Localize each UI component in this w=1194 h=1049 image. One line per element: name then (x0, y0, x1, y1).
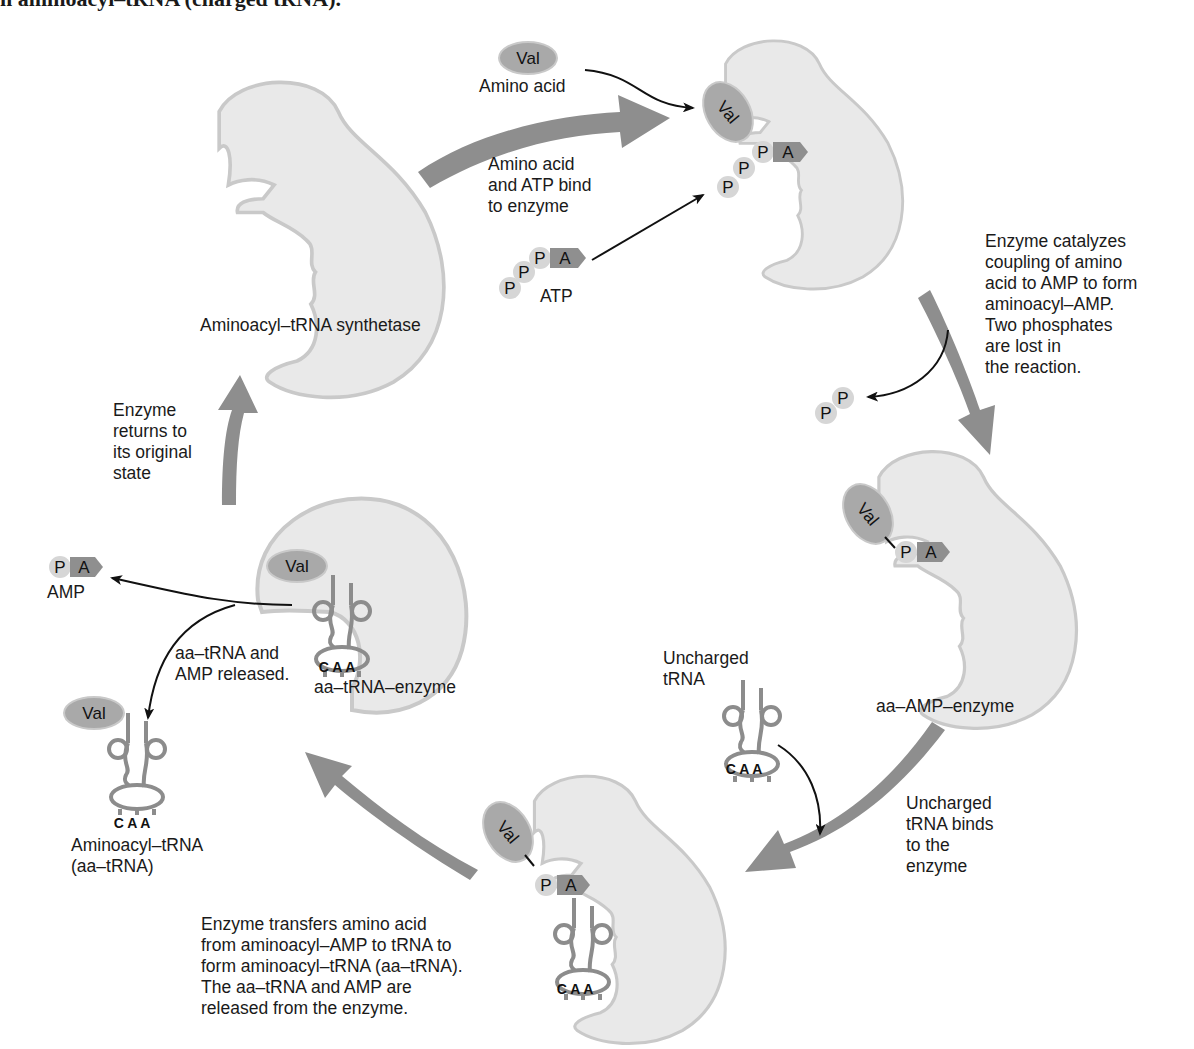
svg-text:P: P (738, 159, 749, 178)
svg-text:C A A: C A A (319, 659, 356, 675)
svg-text:P: P (722, 178, 733, 197)
step-transfer-text: Enzyme transfers amino acid from aminoac… (201, 914, 463, 1019)
svg-text:A: A (559, 249, 571, 268)
stage-label-aa-amp-enzyme: aa–AMP–enzyme (876, 696, 1014, 717)
svg-text:A: A (782, 143, 794, 162)
svg-text:P: P (837, 389, 848, 408)
svg-text:Val: Val (516, 49, 539, 68)
svg-text:P: P (504, 279, 515, 298)
enzyme-aa-amp (879, 452, 1076, 729)
arrow-pyrophosphate-out (868, 330, 948, 397)
cycle-arrow-transfer (305, 752, 478, 880)
aminoacyl-trna-released: Val C A A (64, 697, 165, 831)
stage-label-aa-trna-enzyme: aa–tRNA–enzyme (314, 677, 456, 698)
step-release-text: aa–tRNA and AMP released. (175, 643, 289, 685)
pyrophosphate-released: P P (815, 387, 854, 424)
arrow-atp-in (592, 195, 703, 260)
label-aminoacyl-trna: Aminoacyl–tRNA (aa–tRNA) (71, 835, 203, 877)
label-atp: ATP (540, 286, 573, 307)
enzyme-synthetase (219, 82, 444, 397)
step-bind-text: Amino acid and ATP bind to enzyme (488, 154, 591, 217)
arrow-trna-in (778, 745, 820, 834)
svg-text:Val: Val (285, 557, 308, 576)
svg-text:P: P (518, 263, 529, 282)
uncharged-trna: C A A (724, 680, 780, 782)
svg-text:C A A: C A A (114, 815, 151, 831)
svg-text:P: P (820, 404, 831, 423)
svg-text:P: P (534, 249, 545, 268)
step-couple-text: Enzyme catalyzes coupling of amino acid … (985, 231, 1137, 378)
svg-text:P: P (757, 143, 768, 162)
svg-text:P: P (900, 543, 911, 562)
label-amp: AMP (47, 582, 85, 603)
svg-text:P: P (54, 558, 65, 577)
svg-text:A: A (565, 876, 577, 895)
svg-text:C A A: C A A (557, 981, 594, 997)
val-free-amino-acid: Val (499, 42, 557, 74)
enzyme-trna-bound (534, 776, 725, 1043)
svg-text:A: A (925, 543, 937, 562)
trna-charging-cycle-diagram: Val P P P A Val P P P A P P Val P A C A … (0, 0, 1194, 1049)
amp-released: P A (49, 556, 103, 578)
step-trna-bind-text: Uncharged tRNA binds to the enzyme (906, 793, 994, 877)
arrow-amino-acid-in (585, 70, 693, 108)
label-amino-acid: Amino acid (479, 76, 566, 97)
cycle-arrow-return (218, 375, 258, 505)
step-return-text: Enzyme returns to its original state (113, 400, 192, 484)
svg-text:C A A: C A A (726, 761, 763, 777)
label-uncharged-trna: Uncharged tRNA (663, 648, 749, 690)
svg-text:Val: Val (82, 704, 105, 723)
svg-text:A: A (78, 558, 90, 577)
stage-label-synthetase: Aminoacyl–tRNA synthetase (200, 315, 421, 336)
svg-text:P: P (540, 876, 551, 895)
